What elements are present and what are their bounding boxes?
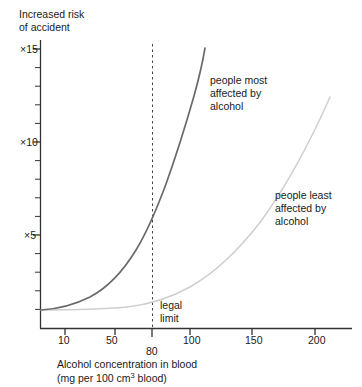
y-tick-label-10: ×10 — [20, 136, 38, 149]
y-axis-title: Increased riskof accident — [19, 8, 84, 34]
x-tick-label-50: 50 — [106, 334, 118, 347]
annotation-legal-line2: limit — [160, 312, 179, 324]
x-axis-title-line2-pre: (mg per 100 cm — [57, 372, 131, 384]
x-tick-label-200: 200 — [308, 334, 326, 347]
accident-risk-chart: Increased riskof accident ×15 ×10 ×5 10 … — [0, 0, 362, 387]
x-tick-label-10: 10 — [58, 334, 70, 347]
x-tick-label-150: 150 — [245, 334, 263, 347]
curve-people-most-affected — [41, 48, 205, 310]
annotation-people-most-affected: people mostaffected byalcohol — [210, 74, 267, 113]
annotation-legal-limit: legallimit — [160, 299, 182, 325]
annotation-least-line3: alcohol — [275, 215, 308, 227]
y-axis-minor-ticks — [35, 68, 41, 310]
y-tick-label-15: ×15 — [20, 43, 38, 56]
x-tick-label-80: 80 — [146, 345, 158, 358]
annotation-most-line3: alcohol — [210, 100, 243, 112]
annotation-most-line1: people most — [210, 74, 267, 86]
annotation-least-line2: affected by — [275, 202, 326, 214]
x-tick-label-100: 100 — [183, 334, 201, 347]
x-axis-title: Alcohol concentration in blood(mg per 10… — [57, 358, 197, 385]
x-axis-title-line2-post: blood) — [135, 372, 167, 384]
annotation-people-least-affected: people leastaffected byalcohol — [275, 189, 332, 228]
y-axis-title-line2: of accident — [19, 21, 70, 33]
x-axis-title-line1: Alcohol concentration in blood — [57, 358, 197, 370]
annotation-most-line2: affected by — [210, 87, 261, 99]
annotation-least-line1: people least — [275, 189, 332, 201]
annotation-legal-line1: legal — [160, 299, 182, 311]
y-axis-title-line1: Increased risk — [19, 8, 84, 20]
y-tick-label-5: ×5 — [24, 229, 36, 242]
